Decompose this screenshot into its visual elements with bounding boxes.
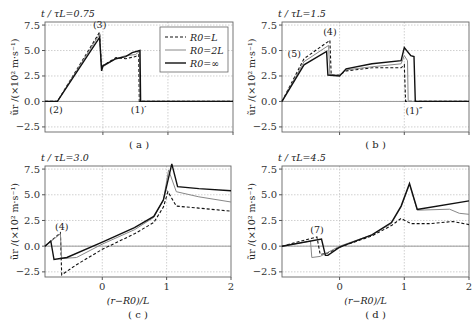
plot-frame (282, 22, 469, 132)
panel-caption: ( a ) (129, 139, 149, 150)
annotation: (4) (55, 221, 68, 232)
panel-caption: ( b ) (365, 139, 386, 150)
y-tick-label: 0.0 (261, 241, 277, 252)
y-tick-label: 7.5 (261, 164, 277, 175)
series-solid (282, 48, 469, 102)
y-tick-label: 0.0 (24, 96, 40, 107)
x-tick-label: 2 (228, 281, 234, 292)
plot-frame (45, 166, 231, 277)
y-tick-label: 2.5 (24, 70, 40, 81)
y-tick-label: 0.0 (261, 96, 277, 107)
x-tick-label: 0 (336, 281, 342, 292)
x-tick-label: 1 (163, 281, 169, 292)
y-tick-label: 5.0 (24, 189, 40, 200)
y-tick-label: −2.5 (253, 121, 277, 132)
y-tick-label: −2.5 (16, 266, 40, 277)
y-tick-label: −2.5 (253, 266, 277, 277)
y-tick-label: −2.5 (16, 121, 40, 132)
panel-a: 7.55.02.50.0−2.5(3)(2)(1)′t / τL=0.75ũr … (9, 8, 233, 150)
annotation: (1)″ (405, 105, 422, 116)
y-tick-label: 7.5 (24, 20, 40, 31)
series-dashed (282, 40, 469, 101)
annotation: (5) (288, 48, 301, 59)
x-tick-label: 1 (401, 281, 407, 292)
series-solid (45, 164, 231, 260)
y-tick-label: 2.5 (261, 215, 277, 226)
y-axis-label: ũr /(×10² m·s⁻¹) (9, 183, 20, 260)
panel-b: 7.55.02.50.0−2.5(4)(5)(1)″t / τL=1.5ũr /… (246, 8, 469, 150)
annotation: (7) (310, 224, 323, 235)
x-axis-label: (r−R0)/L (344, 295, 387, 306)
panel-c: 7.55.02.50.0−2.5012(4)t / τL=3.0ũr /(×10… (9, 152, 234, 320)
panel-title: t / τL=4.5 (278, 152, 326, 163)
legend-label: R0=L (189, 32, 217, 43)
series-gray (45, 170, 231, 258)
annotation: (1)′ (131, 104, 147, 115)
y-tick-label: 5.0 (261, 45, 277, 56)
panel-d: 7.55.02.50.0−2.5012(7)t / τL=4.5ũr /(×10… (246, 152, 472, 320)
y-tick-label: 2.5 (24, 215, 40, 226)
y-tick-label: 2.5 (261, 70, 277, 81)
y-tick-label: 5.0 (24, 45, 40, 56)
y-tick-label: 7.5 (24, 164, 40, 175)
x-axis-label: (r−R0)/L (107, 295, 150, 306)
legend: R0=LR0=2LR0=∞ (160, 27, 228, 72)
annotation: (4) (323, 26, 336, 37)
y-axis-label: ũr /(×10² m·s⁻¹) (246, 183, 257, 260)
y-tick-label: 0.0 (24, 241, 40, 252)
series-dashed (45, 192, 231, 275)
panel-title: t / τL=3.0 (41, 152, 89, 163)
panel-caption: ( c ) (128, 309, 148, 320)
plot-frame (282, 166, 469, 277)
x-tick-label: 0 (99, 281, 105, 292)
annotation: (3) (93, 19, 106, 30)
legend-label: R0=2L (189, 45, 224, 56)
panel-title: t / τL=1.5 (278, 8, 326, 19)
legend-label: R0=∞ (189, 58, 219, 69)
panel-title: t / τL=0.75 (41, 8, 95, 19)
x-tick-label: 2 (466, 281, 472, 292)
figure: 7.55.02.50.0−2.5(3)(2)(1)′t / τL=0.75ũr … (0, 0, 474, 326)
y-tick-label: 7.5 (261, 20, 277, 31)
series-solid (282, 184, 469, 256)
panel-caption: ( d ) (365, 309, 386, 320)
y-axis-label: ũr /(×10² m·s⁻¹) (9, 39, 20, 116)
y-tick-label: 5.0 (261, 189, 277, 200)
y-axis-label: ũr /(×10² m·s⁻¹) (246, 39, 257, 116)
annotation: (2) (49, 104, 62, 115)
